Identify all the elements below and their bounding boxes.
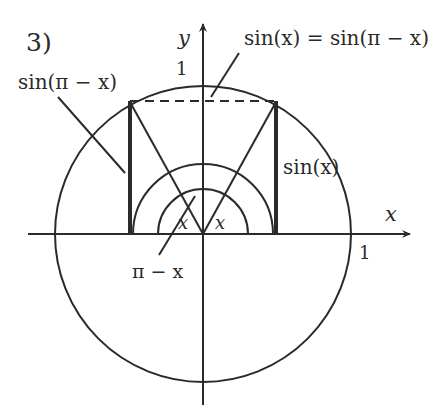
radius-line-left [130,102,203,234]
left-segment-annotation: sin(π − x) [18,72,117,92]
x-tick-one: 1 [359,244,370,262]
angle-x-left-label: x [178,214,188,232]
angle-x-right-label: x [215,214,225,232]
y-axis-label: y [178,28,190,49]
x-axis-label: x [385,204,397,225]
radius-line-right [203,102,276,234]
leader-left-segment [58,97,125,173]
equality-annotation: sin(x) = sin(π − x) [244,28,429,48]
y-tick-one: 1 [176,60,187,78]
leader-supplementary-angle [159,196,195,255]
right-segment-annotation: sin(x) [283,157,339,177]
supplementary-angle-label: π − x [132,262,183,281]
panel-label: 3) [26,30,52,55]
unit-circle-diagram [0,0,434,418]
